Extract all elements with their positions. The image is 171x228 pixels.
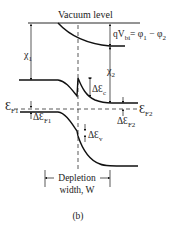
conduction-band (19, 78, 138, 103)
band-diagram: Vacuum level qVbi= φ1 − φ2 χ1 χ2 ΔƐc ƐF1… (0, 0, 171, 228)
chi2-label: χ2 (106, 65, 115, 79)
depletion-label-line1: Depletion (58, 173, 96, 183)
delta-ev-label: ΔƐv (88, 130, 103, 143)
delta-ef1-label: ΔƐF1 (33, 112, 52, 125)
ef1-label: ƐF1 (5, 99, 19, 115)
ef2-label: ƐF2 (139, 102, 153, 118)
qvbi-label: qVbi= φ1 − φ2 (113, 29, 166, 42)
delta-ec-label: ΔƐc (92, 84, 106, 97)
figure-caption: (b) (72, 211, 83, 222)
delta-ef2-label: ΔƐF2 (117, 116, 136, 129)
vacuum-level-label: Vacuum level (58, 9, 113, 20)
depletion-label-line2: width, W (59, 185, 94, 195)
